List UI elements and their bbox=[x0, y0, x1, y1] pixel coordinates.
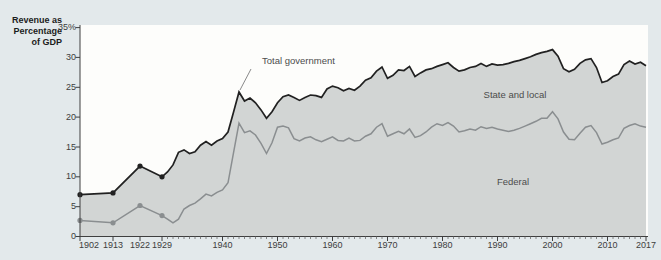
x-tick-label-1929: 1929 bbox=[147, 240, 177, 251]
y-tick-label-10: 10 bbox=[38, 171, 76, 182]
chart-canvas bbox=[0, 0, 661, 260]
x-tick-label-2010: 2010 bbox=[593, 240, 623, 251]
y-tick-label-5: 5 bbox=[38, 201, 76, 212]
federal-marker-1922 bbox=[137, 203, 142, 208]
x-tick-label-1950: 1950 bbox=[263, 240, 293, 251]
federal-area-label: Federal bbox=[478, 176, 548, 187]
x-tick-label-1990: 1990 bbox=[483, 240, 513, 251]
x-tick-label-1940: 1940 bbox=[208, 240, 238, 251]
y-tick-label-0: 0 bbox=[38, 231, 76, 242]
federal-marker-1913 bbox=[110, 220, 115, 225]
revenue-gdp-chart: Revenue as Percentage of GDP 35%30252015… bbox=[0, 0, 661, 260]
x-tick-label-1980: 1980 bbox=[428, 240, 458, 251]
x-tick-label-1970: 1970 bbox=[373, 240, 403, 251]
total-marker-1922 bbox=[137, 164, 142, 169]
total-marker-1929 bbox=[159, 174, 164, 179]
x-tick-label-1960: 1960 bbox=[318, 240, 348, 251]
y-axis-title-line: of GDP bbox=[4, 37, 62, 48]
total-marker-1913 bbox=[110, 190, 115, 195]
x-tick-label-2017: 2017 bbox=[631, 240, 661, 251]
x-tick-label-1913: 1913 bbox=[98, 240, 128, 251]
y-tick-label-25: 25 bbox=[38, 82, 76, 93]
y-tick-label-20: 20 bbox=[38, 112, 76, 123]
state-and-local-area-label: State and local bbox=[465, 89, 565, 100]
total-government-annotation: Total government bbox=[262, 55, 335, 66]
y-tick-label-30: 30 bbox=[38, 52, 76, 63]
y-tick-label-15: 15 bbox=[38, 142, 76, 153]
y-tick-label-35: 35% bbox=[38, 22, 76, 33]
x-tick-label-2000: 2000 bbox=[538, 240, 568, 251]
federal-marker-1929 bbox=[159, 213, 164, 218]
